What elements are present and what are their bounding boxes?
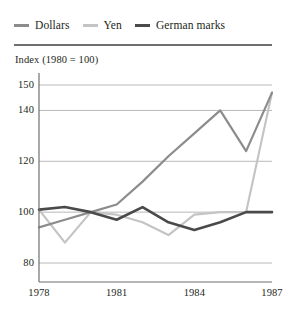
x-tick-label-1981: 1981 xyxy=(99,287,135,298)
y-tick-label-100: 100 xyxy=(6,206,34,217)
x-tick-label-1987: 1987 xyxy=(254,287,286,298)
legend-item-german-marks[interactable]: German marks xyxy=(135,19,225,31)
plot-area: 15014012010080 1978198119841987 xyxy=(0,68,286,288)
series-line-dollars xyxy=(39,93,272,228)
data-series xyxy=(39,93,272,243)
y-tick-label-140: 140 xyxy=(6,104,34,115)
y-tick-label-120: 120 xyxy=(6,155,34,166)
chart-title: Index (1980 = 100) xyxy=(15,53,98,66)
axis-lines xyxy=(39,73,272,282)
y-tick-label-80: 80 xyxy=(6,257,34,268)
figure-container: Dollars Yen German marks Index (1980 = 1… xyxy=(0,0,286,312)
series-line-german-marks xyxy=(39,207,272,230)
y-tick-label-150: 150 xyxy=(6,79,34,90)
x-tick-label-1978: 1978 xyxy=(21,287,57,298)
legend-divider-rule xyxy=(14,44,272,46)
line-swatch-icon xyxy=(135,24,150,27)
line-swatch-icon xyxy=(83,24,98,27)
legend-item-dollars[interactable]: Dollars xyxy=(14,19,70,31)
line-swatch-icon xyxy=(14,24,29,27)
legend-label-dollars: Dollars xyxy=(35,19,70,31)
legend-label-german-marks: German marks xyxy=(156,19,225,31)
legend-label-yen: Yen xyxy=(104,19,122,31)
legend-item-yen[interactable]: Yen xyxy=(83,19,122,31)
gridlines xyxy=(39,85,272,263)
x-tick-label-1984: 1984 xyxy=(176,287,212,298)
chart-svg xyxy=(0,68,286,288)
chart-legend: Dollars Yen German marks xyxy=(14,17,272,33)
